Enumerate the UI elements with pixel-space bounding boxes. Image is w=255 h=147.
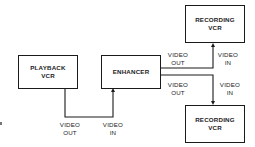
recorder-top-video-in-label: VIDEO IN <box>213 51 243 67</box>
playback-to-enhancer-wire <box>65 88 113 117</box>
playback-video-out-label: VIDEO OUT <box>55 121 85 137</box>
recording-vcr-top-box: RECORDING VCR <box>185 5 245 43</box>
recording-vcr-top-label: RECORDING VCR <box>195 16 235 32</box>
connection-diagram: PLAYBACK VCR ENHANCER RECORDING VCR RECO… <box>0 0 255 147</box>
recording-vcr-bottom-label: RECORDING VCR <box>195 116 235 132</box>
enhancer-video-out-bottom-label: VIDEO OUT <box>163 81 193 97</box>
enhancer-video-in-label: VIDEO IN <box>98 121 128 137</box>
enhancer-label: ENHANCER <box>113 68 150 76</box>
playback-vcr-box: PLAYBACK VCR <box>18 55 78 89</box>
recording-vcr-bottom-box: RECORDING VCR <box>185 105 245 143</box>
enhancer-box: ENHANCER <box>101 55 161 89</box>
playback-vcr-label: PLAYBACK VCR <box>30 64 65 80</box>
recorder-bottom-video-in-label: VIDEO IN <box>215 81 245 97</box>
enhancer-video-out-top-label: VIDEO OUT <box>163 51 193 67</box>
cropped-edge-mark <box>0 122 2 125</box>
